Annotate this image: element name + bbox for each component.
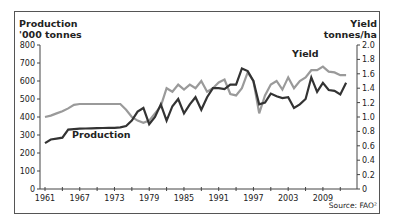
left-tick-label: 400 xyxy=(20,113,35,122)
source-note: Source: FAO² xyxy=(329,201,377,210)
yield-series-label: Yield xyxy=(291,48,319,59)
right-tick-label: 1.6 xyxy=(362,70,375,79)
left-tick-label: 100 xyxy=(20,167,35,176)
right-tick-label: 0.2 xyxy=(362,171,375,180)
right-axis-title-line1: Yield xyxy=(349,18,377,29)
x-tick-label: 1967 xyxy=(70,194,90,203)
left-tick-label: 800 xyxy=(20,41,35,50)
right-tick-label: 1.2 xyxy=(362,99,375,108)
right-tick-label: 1.8 xyxy=(362,55,375,64)
right-tick-label: 0.8 xyxy=(362,127,375,136)
axes: 010020030040050060070080000.20.40.60.81.… xyxy=(20,41,375,203)
x-tick-label: 1997 xyxy=(243,194,263,203)
right-tick-label: 1.0 xyxy=(362,113,375,122)
x-tick-label: 1979 xyxy=(139,194,159,203)
dual-axis-line-chart: 010020030040050060070080000.20.40.60.81.… xyxy=(0,0,394,221)
left-tick-label: 700 xyxy=(20,59,35,68)
left-tick-label: 300 xyxy=(20,131,35,140)
left-tick-label: 0 xyxy=(30,185,35,194)
left-tick-label: 500 xyxy=(20,95,35,104)
x-tick-label: 1985 xyxy=(174,194,194,203)
right-tick-label: 0.4 xyxy=(362,156,375,165)
left-tick-label: 200 xyxy=(20,149,35,158)
right-tick-label: 1.4 xyxy=(362,84,375,93)
x-tick-label: 1973 xyxy=(104,194,124,203)
right-tick-label: 0 xyxy=(362,185,367,194)
x-tick-label: 2003 xyxy=(278,194,298,203)
right-tick-label: 2.0 xyxy=(362,41,375,50)
yield-series-line xyxy=(45,67,346,123)
left-tick-label: 600 xyxy=(20,77,35,86)
x-tick-label: 1991 xyxy=(209,194,229,203)
production-series-label: Production xyxy=(72,129,131,140)
x-tick-label: 1961 xyxy=(35,194,55,203)
left-axis-title-line2: '000 tonnes xyxy=(19,29,82,40)
right-axis-title-line2: tonnes/ha xyxy=(324,29,377,40)
right-tick-label: 0.6 xyxy=(362,142,375,151)
left-axis-title-line1: Production xyxy=(19,18,78,29)
